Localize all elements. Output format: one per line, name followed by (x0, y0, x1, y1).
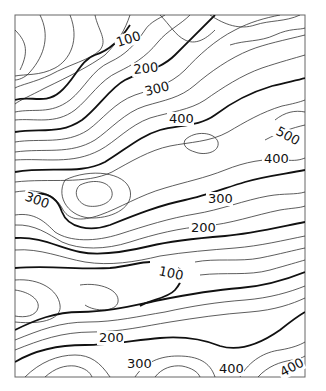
contour-label-text: 400 (219, 361, 244, 376)
contour-label-text: 300 (127, 356, 152, 371)
contour-label-text: 100 (157, 263, 184, 283)
contour-label: 100 (112, 28, 142, 51)
contour-label-text: 500 (274, 123, 303, 148)
contour-map: 1002003004005004003003002001002003004004… (0, 0, 326, 391)
contour-label-text: 300 (23, 189, 51, 212)
contour-label: 200 (189, 220, 216, 235)
contour-label-text: 200 (191, 220, 216, 235)
contour-label: 300 (21, 188, 52, 211)
contour-label: 400 (167, 111, 194, 126)
contour-label: 100 (155, 263, 185, 283)
contour-label-text: 300 (143, 78, 171, 99)
map-frame (15, 15, 305, 377)
contour-label: 300 (125, 356, 152, 371)
contour-label: 400 (217, 361, 244, 376)
contour-label-text: 200 (133, 59, 159, 77)
contour-label-text: 400 (277, 355, 306, 380)
contour-label-text: 300 (208, 191, 233, 206)
contour-label: 300 (206, 191, 233, 206)
contour-label-text: 100 (114, 28, 142, 50)
contour-label: 400 (262, 151, 289, 166)
contour-label: 200 (131, 59, 159, 77)
contour-label-text: 400 (264, 151, 289, 166)
contour-label-text: 200 (99, 330, 124, 345)
contour-lines (15, 15, 305, 377)
contour-labels: 1002003004005004003003002001002003004004… (21, 28, 306, 381)
contour-label: 200 (97, 330, 124, 345)
contour-label: 300 (141, 78, 171, 99)
contour-label-text: 400 (169, 111, 194, 126)
